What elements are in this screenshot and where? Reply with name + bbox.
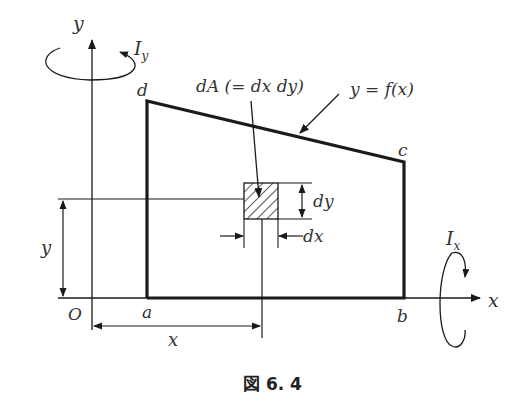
element-area-label: dA (= dx dy) xyxy=(196,76,304,96)
curve-label: y = f(x) xyxy=(349,79,414,99)
area-element-da xyxy=(244,183,278,219)
figure-caption: 図 6. 4 xyxy=(243,374,302,394)
y-dimension-label: y xyxy=(40,237,52,258)
y-axis-label: y xyxy=(72,12,84,34)
ix-label: Ix xyxy=(445,227,461,253)
vertex-c-label: c xyxy=(398,140,408,160)
dy-label: dy xyxy=(313,191,334,211)
dx-label: dx xyxy=(303,226,324,246)
x-axis-label: x xyxy=(488,289,499,311)
iy-rotation-arrow-icon xyxy=(46,48,135,80)
ix-rotation-arrow-icon xyxy=(440,252,465,346)
vertex-b-label: b xyxy=(397,306,408,326)
vertex-a-label: a xyxy=(142,302,152,322)
vertex-d-label: d xyxy=(137,80,148,100)
iy-label: Iy xyxy=(133,37,149,63)
curve-leader-arrow xyxy=(300,94,339,133)
origin-label: O xyxy=(68,304,82,324)
moment-of-inertia-diagram: y x O Iy Ix a b c d y = f(x) dA (= dx dy… xyxy=(0,0,525,417)
x-dimension-label: x xyxy=(168,329,178,350)
